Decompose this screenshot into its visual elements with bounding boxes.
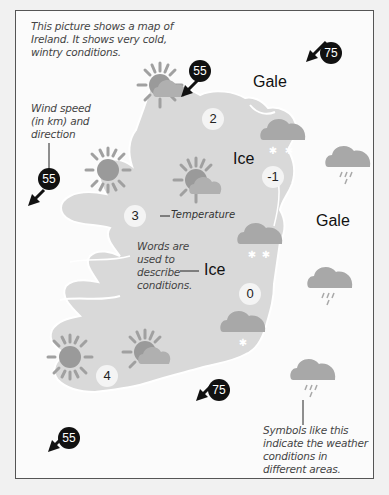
- condition-gale-east: Gale: [316, 212, 350, 230]
- svg-text:✱: ✱: [248, 249, 256, 260]
- wind-speed-southwest: 55: [58, 427, 80, 449]
- rain-cloud-icon: [325, 146, 370, 184]
- svg-text:✱: ✱: [239, 337, 247, 348]
- words-caption: Words are used to describe conditions.: [137, 240, 207, 292]
- temperature-west: 3: [124, 205, 146, 227]
- wind-speed-west: 55: [38, 168, 60, 190]
- temperature-caption: Temperature: [171, 209, 235, 220]
- condition-ice-label: Ice: [204, 261, 225, 279]
- rain-cloud-icon: [290, 359, 335, 397]
- temperature-northeast: -1: [262, 166, 284, 188]
- sun-icon: [48, 335, 92, 379]
- wind-speed-caption: Wind speed (in km) and direction: [31, 102, 111, 141]
- symbols-caption: Symbols like this indicate the weather c…: [263, 424, 378, 476]
- svg-text:✱: ✱: [269, 145, 277, 156]
- wind-speed-northeast: 75: [320, 42, 342, 64]
- svg-text:✱: ✱: [285, 145, 293, 156]
- intro-caption: This picture shows a map of Ireland. It …: [31, 20, 221, 59]
- rain-cloud-icon: [307, 267, 352, 305]
- svg-text:✱: ✱: [262, 249, 270, 260]
- temperature-north: 2: [202, 108, 224, 130]
- condition-gale-north: Gale: [253, 73, 287, 91]
- sun-icon: [86, 148, 130, 192]
- condition-ice-center: Ice: [233, 150, 254, 168]
- wind-arrow-icon: [28, 190, 44, 206]
- wind-speed-south: 75: [208, 379, 230, 401]
- wind-speed-north: 55: [189, 60, 211, 82]
- temperature-southwest: 4: [96, 365, 118, 387]
- temperature-east: 0: [239, 283, 261, 305]
